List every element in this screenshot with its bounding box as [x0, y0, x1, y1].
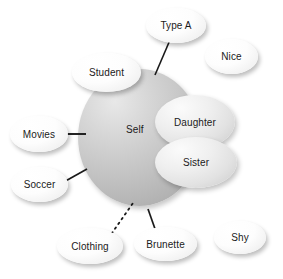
node-sister-label: Sister [183, 157, 209, 168]
node-soccer-label: Soccer [24, 179, 56, 190]
node-student[interactable]: Student [72, 53, 141, 92]
node-brunette-label: Brunette [146, 239, 185, 250]
node-type-a-label: Type A [160, 20, 191, 31]
node-shy-label: Shy [231, 232, 249, 243]
node-shy[interactable]: Shy [214, 221, 266, 254]
edge-type-a [155, 40, 170, 75]
node-movies[interactable]: Movies [10, 116, 68, 152]
node-brunette[interactable]: Brunette [134, 227, 197, 261]
node-type-a[interactable]: Type A [146, 8, 206, 43]
node-clothing[interactable]: Clothing [57, 228, 123, 264]
node-sister[interactable]: Sister [155, 137, 237, 188]
node-nice-label: Nice [221, 51, 241, 62]
self-schema-diagram: Self Daughter Sister Student Type A Nice… [0, 0, 283, 279]
node-clothing-label: Clothing [71, 241, 109, 252]
node-daughter-label: Daughter [174, 117, 216, 128]
node-movies-label: Movies [23, 129, 55, 140]
node-nice[interactable]: Nice [205, 39, 258, 74]
node-soccer[interactable]: Soccer [11, 167, 68, 202]
core-self-label: Self [126, 124, 144, 135]
node-student-label: Student [89, 67, 124, 78]
